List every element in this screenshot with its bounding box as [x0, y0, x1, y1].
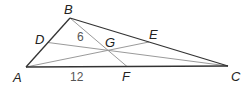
label-E: E — [149, 27, 158, 42]
label-C: C — [231, 69, 241, 84]
side-CA — [26, 66, 228, 67]
median-CD — [48, 43, 228, 67]
measure-BG: 6 — [77, 30, 84, 44]
measure-AF: 12 — [70, 70, 84, 84]
label-B: B — [64, 2, 73, 17]
label-F: F — [122, 69, 131, 84]
label-G: G — [105, 35, 115, 50]
label-D: D — [35, 32, 44, 47]
label-A: A — [12, 70, 22, 85]
triangle-centroid-diagram: B A C D G E F 6 12 — [0, 0, 249, 88]
side-BC — [70, 18, 228, 66]
